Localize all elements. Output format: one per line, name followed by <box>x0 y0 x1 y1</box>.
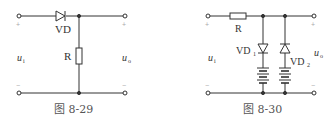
terminal-output-bottom <box>312 91 316 95</box>
terminal-output-top <box>123 14 127 18</box>
minus-input: − <box>205 82 209 89</box>
plus-output: + <box>122 21 126 28</box>
resistor-r <box>230 13 246 19</box>
label-vd1: VD <box>236 45 250 56</box>
label-uo-sub: o <box>128 58 131 64</box>
figure-8-29-labels: VD R u i u o + + − − 图 8-29 <box>16 21 131 116</box>
battery-1 <box>257 68 269 83</box>
terminal-input-top <box>206 14 210 18</box>
battery-2 <box>279 68 291 83</box>
label-ui-sub: i <box>214 58 216 64</box>
label-vd2: VD <box>290 56 304 67</box>
minus-output: − <box>311 82 315 89</box>
plus-output: + <box>311 21 315 28</box>
caption-8-29: 图 8-29 <box>54 103 93 116</box>
label-ui: u <box>208 52 213 63</box>
label-uo: u <box>122 52 127 63</box>
diode-vd1 <box>258 44 268 53</box>
figure-8-29 <box>17 11 127 95</box>
label-r: R <box>235 23 242 34</box>
caption-8-30: 图 8-30 <box>243 103 282 116</box>
junction-dot <box>283 91 286 94</box>
label-vd: VD <box>55 23 71 35</box>
junction-dot <box>261 91 264 94</box>
terminal-input-top <box>17 14 21 18</box>
minus-output: − <box>122 82 126 89</box>
diode-vd <box>56 11 65 21</box>
junction-dot <box>77 91 80 94</box>
resistor-r <box>76 48 82 64</box>
terminal-input-bottom <box>206 91 210 95</box>
label-ui-sub: i <box>23 58 25 64</box>
label-r: R <box>64 50 72 62</box>
label-uo-sub: o <box>320 53 323 59</box>
terminal-output-top <box>312 14 316 18</box>
terminal-input-bottom <box>17 91 21 95</box>
minus-input: − <box>16 82 20 89</box>
figure-8-30 <box>206 13 316 95</box>
plus-input: + <box>205 21 209 28</box>
label-vd2-sub: 2 <box>307 62 310 68</box>
diode-vd2 <box>280 44 290 53</box>
label-uo: u <box>314 47 319 58</box>
terminal-output-bottom <box>123 91 127 95</box>
circuit-diagrams: VD R u i u o + + − − 图 8-29 <box>0 0 331 125</box>
label-ui: u <box>17 52 22 63</box>
label-vd1-sub: 1 <box>253 51 256 57</box>
plus-input: + <box>16 21 20 28</box>
